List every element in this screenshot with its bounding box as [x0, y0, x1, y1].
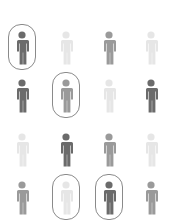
person-icon [8, 174, 36, 220]
person-icon [52, 24, 80, 70]
person-icon [95, 72, 123, 118]
person-cell [95, 126, 123, 172]
highlight-outline [95, 174, 123, 220]
person-grid [0, 0, 173, 222]
person-icon [52, 126, 80, 172]
person-cell [137, 24, 165, 70]
highlight-outline [8, 24, 36, 70]
person-cell [95, 24, 123, 70]
person-cell [52, 72, 80, 118]
person-icon [95, 24, 123, 70]
person-cell [137, 126, 165, 172]
person-icon [8, 126, 36, 172]
person-cell [137, 174, 165, 220]
person-cell [52, 126, 80, 172]
person-cell [95, 174, 123, 220]
person-icon [8, 72, 36, 118]
person-icon [95, 126, 123, 172]
person-icon [137, 174, 165, 220]
person-cell [8, 174, 36, 220]
person-cell [8, 72, 36, 118]
person-icon [137, 24, 165, 70]
person-cell [52, 174, 80, 220]
person-cell [8, 126, 36, 172]
person-cell [52, 24, 80, 70]
person-cell [95, 72, 123, 118]
person-icon [137, 126, 165, 172]
highlight-outline [52, 174, 80, 220]
person-cell [137, 72, 165, 118]
person-cell [8, 24, 36, 70]
highlight-outline [52, 72, 80, 118]
person-icon [137, 72, 165, 118]
